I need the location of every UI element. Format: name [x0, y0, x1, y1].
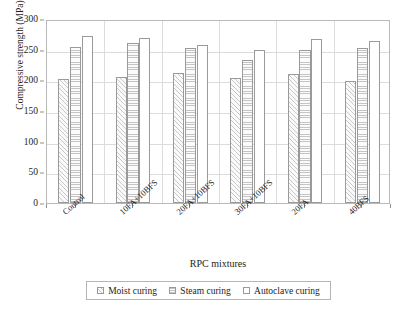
y-tick-mark	[40, 142, 44, 143]
x-tick-mark	[46, 204, 47, 208]
bar-group	[47, 21, 104, 203]
y-tick-mark	[40, 50, 44, 51]
y-tick-mark	[40, 81, 44, 82]
legend-label: Moist curing	[108, 286, 157, 296]
x-axis: Control10FA+10BFS20FA+10BFS30FA+10BFS20F…	[46, 204, 390, 256]
bar-steam	[242, 60, 253, 203]
bar-chart-figure: Compressive strength (MPa) 0501001502002…	[0, 0, 412, 316]
bar-steam	[185, 48, 196, 203]
legend-entry: Moist curing	[97, 286, 157, 296]
bar-moist	[230, 78, 241, 203]
y-tick-mark	[40, 173, 44, 174]
legend-label: Autoclave curing	[254, 286, 320, 296]
legend-swatch-moist-icon	[97, 287, 104, 294]
bar-moist	[58, 79, 69, 203]
bar-moist	[345, 81, 356, 203]
bar-steam	[299, 50, 310, 203]
y-tick-label: 300	[24, 15, 38, 25]
bar-group	[334, 21, 391, 203]
y-tick-label: 200	[24, 77, 38, 87]
chart-legend: Moist curingSteam curingAutoclave curing	[86, 281, 331, 300]
legend-entry: Steam curing	[169, 286, 230, 296]
legend-swatch-steam-icon	[169, 287, 176, 294]
bar-moist	[116, 77, 127, 203]
y-tick-label: 50	[29, 169, 39, 179]
y-tick-label: 150	[24, 107, 38, 117]
bar-group	[104, 21, 161, 203]
bar-moist	[288, 74, 299, 203]
bar-steam	[70, 47, 81, 203]
bar-group	[276, 21, 333, 203]
y-tick-label: 100	[24, 138, 38, 148]
bar-autoclave	[369, 41, 380, 203]
bar-steam	[357, 48, 368, 203]
plot-area	[46, 20, 390, 204]
x-tick-mark	[390, 204, 391, 208]
bar-autoclave	[311, 39, 322, 203]
legend-label: Steam curing	[180, 286, 230, 296]
legend-swatch-autoclave-icon	[243, 287, 250, 294]
bar-moist	[173, 73, 184, 203]
y-tick-label: 250	[24, 46, 38, 56]
y-tick-label: 0	[33, 199, 38, 209]
y-axis: 050100150200250300	[0, 20, 44, 204]
bar-group	[162, 21, 219, 203]
y-tick-mark	[40, 204, 44, 205]
bar-autoclave	[139, 38, 150, 203]
y-tick-mark	[40, 20, 44, 21]
bar-autoclave	[82, 36, 93, 203]
y-tick-mark	[40, 112, 44, 113]
bar-group	[219, 21, 276, 203]
bar-steam	[127, 43, 138, 203]
x-axis-title: RPC mixtures	[46, 258, 390, 269]
legend-entry: Autoclave curing	[243, 286, 320, 296]
